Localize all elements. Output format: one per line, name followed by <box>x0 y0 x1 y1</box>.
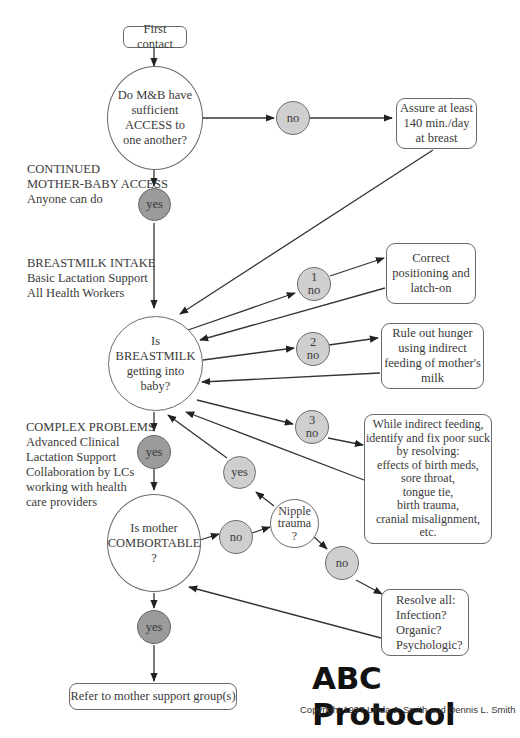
comfort-line-3: ? <box>108 551 201 566</box>
note-access-line-1: CONTINUED <box>27 162 168 177</box>
rule-out-hunger-box: Rule out hunger using indirect feeding o… <box>381 323 484 389</box>
refer-support-group-box: Refer to mother support group(s) <box>69 683 237 710</box>
indirect-line-3: by resolving: <box>366 445 490 459</box>
access-no-decision: no <box>276 101 310 135</box>
resolve-line-4: Psychologic? <box>396 638 463 653</box>
note-complex-line-2: Advanced Clinical <box>26 435 155 450</box>
access-line-3: ACCESS to <box>118 118 192 133</box>
nipple-trauma-circle: Nipple trauma ? <box>270 499 319 548</box>
indirect-line-9: etc. <box>366 526 490 540</box>
bm-no-2-label: no <box>307 349 320 362</box>
bm-line-1: Is <box>116 334 196 349</box>
bm-line-3: getting into <box>116 364 196 379</box>
note-intake-line-1: BREASTMILK INTAKE <box>27 256 156 271</box>
note-complex-line-1: COMPLEX PROBLEMS <box>26 420 155 435</box>
access-yes-decision: yes <box>138 188 171 221</box>
access-line-2: sufficient <box>118 103 192 118</box>
note-complex-line-3: Lactation Support <box>26 450 155 465</box>
breastmilk-question-circle: Is BREASTMILK getting into baby? <box>108 316 203 411</box>
indirect-line-7: birth trauma, <box>366 499 490 513</box>
assure-time-box: Assure at least 140 min./day at breast <box>396 98 477 149</box>
nipple-yes-decision: yes <box>223 456 256 489</box>
indirect-line-5: sore throat, <box>366 472 490 486</box>
indirect-feeding-box: While indirect feeding, identify and fix… <box>364 414 492 544</box>
note-intake-line-3: All Health Workers <box>27 286 156 301</box>
bm-line-4: baby? <box>116 379 196 394</box>
resolve-line-3: Organic? <box>396 623 463 638</box>
note-complex-line-4: Collaboration by LCs <box>26 465 155 480</box>
resolve-line-2: Infection? <box>396 608 463 623</box>
bm-yes-decision: yes <box>137 435 171 469</box>
comfortable-question-circle: Is mother COMBORTABLE ? <box>107 494 201 592</box>
diagram-title: ABC Protocol <box>312 660 520 732</box>
bm-no-1-label: no <box>308 284 321 297</box>
refer-label: Refer to mother support group(s) <box>70 689 235 704</box>
nipple-yes-label: yes <box>231 465 248 480</box>
note-complex-line-5: working with health <box>26 480 155 495</box>
nipple-line-2: trauma <box>278 517 311 530</box>
access-line-4: one another? <box>118 133 192 148</box>
resolve-all-box: Resolve all: Infection? Organic? Psychol… <box>381 589 469 656</box>
correct-line-3: latch-on <box>392 281 469 296</box>
nipple-line-3: ? <box>278 530 311 543</box>
comfort-no-decision: no <box>219 520 253 554</box>
correct-line-2: positioning and <box>392 266 469 281</box>
copyright-text: Copyright 1997 Linda J. Smith and Dennis… <box>300 704 515 715</box>
note-intake-line-2: Basic Lactation Support <box>27 271 156 286</box>
rule-out-line-1: Rule out hunger <box>384 326 481 341</box>
note-complex-problems: COMPLEX PROBLEMS Advanced Clinical Lacta… <box>26 420 155 510</box>
correct-line-1: Correct <box>392 251 469 266</box>
bm-no-2-decision: 2 no <box>296 332 330 366</box>
assure-line-3: at breast <box>400 131 473 146</box>
bm-yes-label: yes <box>146 445 163 460</box>
rule-out-line-3: feeding of mother's <box>384 356 481 371</box>
correct-positioning-box: Correct positioning and latch-on <box>386 243 476 304</box>
rule-out-line-4: milk <box>384 371 481 386</box>
note-breastmilk-intake: BREASTMILK INTAKE Basic Lactation Suppor… <box>27 256 156 301</box>
nipple-no-decision: no <box>325 546 359 580</box>
indirect-line-6: tongue tie, <box>366 486 490 500</box>
access-yes-label: yes <box>146 197 163 212</box>
access-line-1: Do M&B have <box>118 88 192 103</box>
comfort-yes-label: yes <box>146 620 163 635</box>
comfort-line-2: COMBORTABLE <box>108 536 201 551</box>
comfort-line-1: Is mother <box>108 521 201 536</box>
comfort-no-label: no <box>230 530 243 545</box>
rule-out-line-2: using indirect <box>384 341 481 356</box>
resolve-line-1: Resolve all: <box>396 593 463 608</box>
comfort-yes-decision: yes <box>137 610 171 644</box>
bm-no-3-decision: 3 no <box>295 410 329 444</box>
access-no-label: no <box>287 111 300 126</box>
first-contact-label: First contact <box>124 22 186 52</box>
bm-no-1-decision: 1 no <box>297 267 331 301</box>
nipple-no-label: no <box>336 556 349 571</box>
assure-line-2: 140 min./day <box>400 116 473 131</box>
indirect-line-4: effects of birth meds, <box>366 459 490 473</box>
first-contact-box: First contact <box>123 26 187 48</box>
indirect-line-2: identify and fix poor suck <box>366 432 490 446</box>
indirect-line-1: While indirect feeding, <box>366 418 490 432</box>
access-question-circle: Do M&B have sufficient ACCESS to one ano… <box>107 66 203 170</box>
bm-no-3-label: no <box>306 427 319 440</box>
assure-line-1: Assure at least <box>400 101 473 116</box>
indirect-line-8: cranial misalignment, <box>366 513 490 527</box>
bm-line-2: BREASTMILK <box>116 349 196 364</box>
